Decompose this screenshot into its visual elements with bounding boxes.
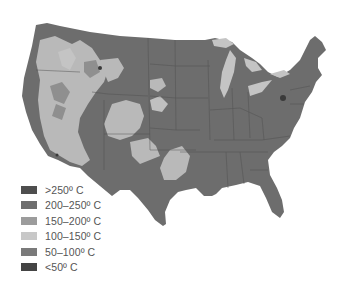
legend-swatch <box>21 186 37 194</box>
legend-item: 150–200º C <box>21 213 101 229</box>
legend-swatch <box>21 217 37 225</box>
legend-swatch <box>21 201 37 209</box>
legend-swatch <box>21 263 37 271</box>
legend-item: >250º C <box>21 182 101 198</box>
legend-item: 50–100º C <box>21 244 101 260</box>
legend-label: 200–250º C <box>45 199 101 211</box>
legend-swatch <box>21 232 37 240</box>
legend: >250º C 200–250º C 150–200º C 100–150º C… <box>21 182 101 275</box>
legend-item: 200–250º C <box>21 198 101 214</box>
legend-swatch <box>21 248 37 256</box>
legend-label: <50º C <box>45 261 78 273</box>
legend-label: 150–200º C <box>45 215 101 227</box>
legend-label: >250º C <box>45 184 84 196</box>
legend-label: 100–150º C <box>45 230 101 242</box>
legend-label: 50–100º C <box>45 246 95 258</box>
legend-item: 100–150º C <box>21 229 101 245</box>
legend-item: <50º C <box>21 260 101 276</box>
